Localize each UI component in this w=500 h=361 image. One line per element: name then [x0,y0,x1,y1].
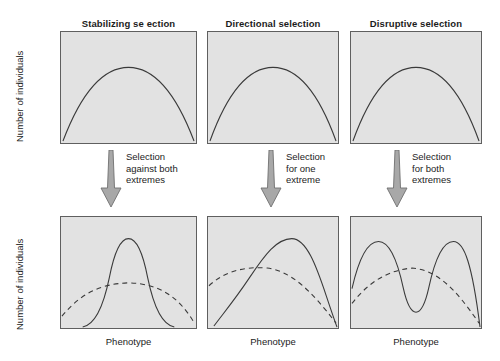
curve-original-distribution [209,268,336,323]
caption-line: Selection [412,151,451,163]
curve-selected-distribution [83,239,175,327]
column-title-directional: Directional selection [207,18,339,29]
y-axis-label-bottom: Number of individuals [14,239,25,330]
panel-stabilizing-before [60,31,197,144]
arrow-caption-disruptive: Selection for both extremes [412,151,451,186]
arrow-stabilizing [98,150,124,208]
arrow-caption-directional: Selection for one extreme [286,151,325,186]
panel-directional-before [207,31,339,144]
panel-stabilizing-after [60,216,197,329]
caption-line: extremes [412,174,451,186]
caption-line: extremes [126,174,178,186]
curve-original-distribution [353,67,479,141]
curve-original-distribution [210,67,336,141]
caption-line: extreme [286,174,325,186]
panel-disruptive-before [350,31,482,144]
column-title-stabilizing: Stabilizing se ection [60,18,197,29]
caption-line: for both [412,163,451,175]
x-axis-label-disruptive: Phenotype [350,336,482,347]
panel-directional-after [207,216,339,329]
down-arrow-icon [101,150,121,207]
panel-disruptive-after [350,216,482,329]
caption-line: Selection [126,151,178,163]
curve-original-distribution [63,67,194,141]
natural-selection-figure: Stabilizing se ection Directional select… [0,0,500,361]
curve-selected-distribution [214,239,337,327]
caption-line: Selection [286,151,325,163]
caption-line: against both [126,163,178,175]
arrow-disruptive [384,150,410,208]
x-axis-label-directional: Phenotype [207,336,339,347]
column-title-disruptive: Disruptive selection [350,18,482,29]
curve-original-distribution [352,268,479,323]
caption-line: for one [286,163,325,175]
down-arrow-icon [261,150,281,207]
down-arrow-icon [387,150,407,207]
arrow-caption-stabilizing: Selection against both extremes [126,151,178,186]
arrow-directional [258,150,284,208]
curve-original-distribution [62,283,195,324]
y-axis-label-top: Number of individuals [14,51,25,142]
x-axis-label-stabilizing: Phenotype [60,336,197,347]
